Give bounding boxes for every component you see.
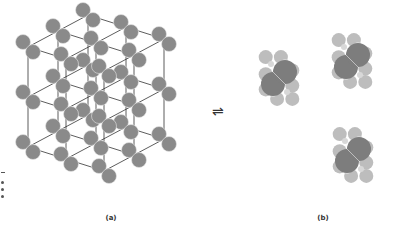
diagram-canvas: [0, 0, 405, 235]
diatomic-molecule: [92, 159, 117, 184]
diatomic-molecule: [122, 93, 147, 118]
diatomic-molecule: [46, 69, 71, 94]
diatomic-molecule: [114, 15, 139, 40]
diatomic-molecule: [152, 127, 177, 152]
edge-mark: [1, 172, 5, 173]
diatomic-molecule: [114, 65, 139, 90]
diatomic-molecule: [114, 115, 139, 140]
diatomic-molecule: [152, 27, 177, 52]
diatomic-molecule: [122, 143, 147, 168]
diatomic-molecule: [16, 85, 41, 110]
edge-mark: [1, 195, 4, 198]
caption-panel-b: (b): [317, 214, 328, 222]
diatomic-molecule: [84, 131, 109, 156]
diatomic-molecule: [54, 47, 79, 72]
diatomic-molecule: [46, 19, 71, 44]
equilibrium-arrow-icon: ⇌: [212, 104, 224, 118]
edge-mark: [1, 181, 4, 184]
edge-mark: [1, 188, 4, 191]
diatomic-molecule: [54, 97, 79, 122]
free-molecule: [259, 50, 300, 106]
free-molecule: [333, 127, 374, 183]
diatomic-molecule: [152, 77, 177, 102]
diatomic-molecule: [76, 3, 101, 28]
free-molecule: [332, 33, 373, 89]
caption-panel-a: (a): [105, 214, 116, 222]
diatomic-molecule: [16, 35, 41, 60]
diatomic-molecule: [92, 59, 117, 84]
diatomic-molecule: [84, 81, 109, 106]
lattice-molecules: [16, 3, 177, 184]
diatomic-molecule: [122, 43, 147, 68]
diatomic-molecule: [54, 147, 79, 172]
diatomic-molecule: [92, 109, 117, 134]
diatomic-molecule: [16, 135, 41, 160]
diatomic-molecule: [84, 31, 109, 56]
figure: ⇌ (a) (b): [0, 0, 405, 235]
diatomic-molecule: [46, 119, 71, 144]
